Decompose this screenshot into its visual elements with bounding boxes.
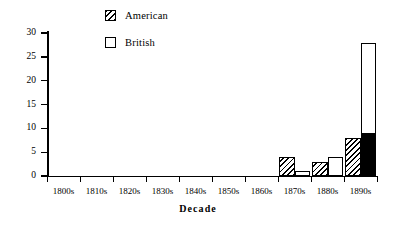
- x-tick: [80, 176, 81, 182]
- y-tick-label: 5: [14, 147, 36, 157]
- legend-item-american: American: [105, 8, 168, 22]
- x-tick: [179, 176, 180, 182]
- bar-1880s-british: [328, 157, 344, 176]
- bar-1890s-british-solid-segment: [361, 133, 377, 176]
- x-tick: [377, 176, 378, 182]
- legend-label-american: American: [125, 10, 168, 21]
- y-tick-label: 10: [14, 123, 36, 133]
- y-tick-label: 15: [14, 100, 36, 110]
- bar-1880s-american: [312, 162, 328, 176]
- y-tick-label: 20: [14, 76, 36, 86]
- y-tick-label: 30: [14, 28, 36, 38]
- x-axis-title: Decade: [0, 203, 396, 214]
- bar-1870s-american: [279, 157, 295, 176]
- x-tick: [113, 176, 114, 182]
- x-tick: [344, 176, 345, 182]
- hatched-square-icon: [105, 10, 116, 21]
- x-tick: [212, 176, 213, 182]
- x-tick: [47, 176, 48, 182]
- bar-1870s-british: [295, 171, 311, 176]
- bar-1890s-american: [345, 138, 361, 176]
- y-tick-label: 0: [14, 171, 36, 181]
- y-tick-label: 25: [14, 52, 36, 62]
- x-tick: [278, 176, 279, 182]
- bar-chart: American British Number of Papers 051015…: [0, 0, 396, 225]
- plot-area: [47, 33, 377, 176]
- x-tick-label: 1890s: [339, 186, 383, 196]
- x-tick: [146, 176, 147, 182]
- x-tick: [245, 176, 246, 182]
- x-tick: [311, 176, 312, 182]
